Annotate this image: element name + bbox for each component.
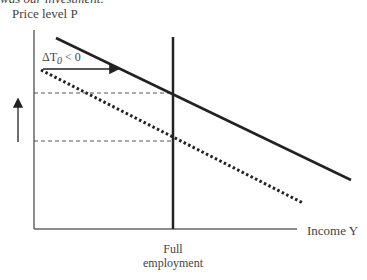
diagram-canvas bbox=[0, 0, 367, 280]
solid-curve bbox=[56, 38, 351, 180]
